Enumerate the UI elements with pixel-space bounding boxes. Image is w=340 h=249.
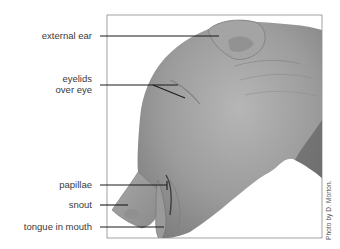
photo-credit: Photo by D. Morton. bbox=[325, 180, 332, 240]
label-snout: snout bbox=[69, 199, 92, 210]
label-eyelids-over-eye: eyelids over eye bbox=[12, 73, 92, 95]
label-eyelids-line2: over eye bbox=[12, 84, 92, 95]
label-external-ear: external ear bbox=[42, 30, 92, 41]
label-eyelids-line1: eyelids bbox=[12, 73, 92, 84]
figure: external ear eyelids over eye papillae s… bbox=[0, 0, 340, 249]
label-papillae: papillae bbox=[59, 179, 92, 190]
label-tongue-in-mouth: tongue in mouth bbox=[24, 221, 92, 232]
